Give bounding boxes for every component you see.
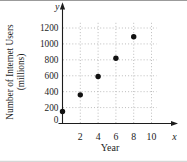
data-point-2 — [95, 74, 100, 79]
y-tick-label-1200: 1200 — [40, 23, 59, 33]
y-axis-title-line1: Number of Internet Users — [5, 24, 15, 120]
data-point-0 — [60, 109, 65, 114]
y-tick-label-600: 600 — [45, 71, 59, 81]
y-tick-label-400: 400 — [45, 87, 59, 97]
y-axis-arrow-icon — [60, 2, 65, 9]
data-point-4 — [131, 34, 136, 39]
x-tick-label-8: 8 — [131, 131, 136, 142]
y-axis-letter: y — [54, 1, 60, 12]
x-tick-label-4: 4 — [96, 131, 101, 142]
x-axis-letter: x — [171, 131, 177, 142]
x-tick-label-6: 6 — [113, 131, 118, 142]
y-tick-label-0: 0 — [54, 115, 59, 125]
y-tick-label-200: 200 — [45, 103, 59, 113]
y-tick-label-1000: 1000 — [40, 39, 59, 49]
x-axis-arrow-icon — [171, 121, 178, 126]
data-point-1 — [78, 92, 83, 97]
x-tick-label-10: 10 — [147, 131, 157, 142]
x-axis-title: Year — [101, 142, 120, 153]
y-tick-label-800: 800 — [45, 55, 59, 65]
y-axis-title-line2: (millions) — [16, 54, 27, 91]
data-point-3 — [113, 56, 118, 61]
x-tick-label-2: 2 — [78, 131, 83, 142]
scatter-plot-figure: 020040060080010001200246810yxYearNumber … — [0, 0, 187, 162]
internet-users-scatter-plot: 020040060080010001200246810yxYearNumber … — [0, 0, 187, 162]
